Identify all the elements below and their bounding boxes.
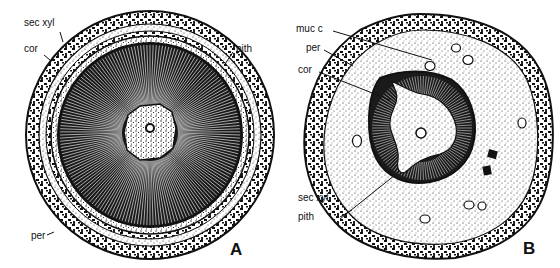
label-b-pith: pith	[298, 212, 314, 222]
label-b-sec-xyl: sec xyl	[298, 193, 329, 203]
label-a-cor: cor	[24, 44, 38, 54]
panel-letter-b: B	[523, 240, 535, 257]
panel-b-section	[304, 14, 553, 259]
label-a-per: per	[31, 231, 45, 241]
label-b-cor: cor	[298, 65, 312, 75]
label-b-muc-c: muc c	[296, 24, 323, 34]
label-a-sec-xyl: sec xyl	[24, 18, 55, 28]
label-a-pith: pith	[236, 44, 252, 54]
label-b-per: per	[306, 43, 320, 53]
figure-stage: sec xyl cor pith per A muc c per cor sec…	[0, 0, 560, 268]
stem-cross-sections-illustration	[0, 0, 560, 268]
panel-letter-a: A	[230, 241, 242, 258]
